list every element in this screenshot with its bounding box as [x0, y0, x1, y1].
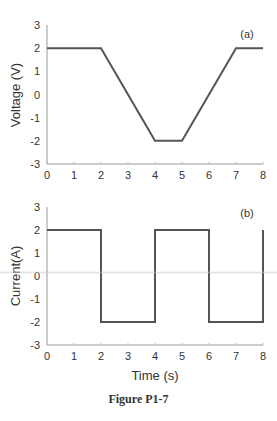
x-tick-label: 4	[152, 169, 158, 181]
y-tick-label: 2	[34, 42, 40, 54]
y-axis-label-a: Voltage (V)	[8, 63, 23, 127]
x-tick-labels-a: 012345678	[44, 162, 266, 181]
y-tick-labels-b: 3210-1-2-3	[30, 201, 40, 351]
y-axis-label-b: Current(A)	[8, 246, 23, 307]
x-tick-label: 7	[233, 169, 239, 181]
x-tick-label: 6	[206, 169, 212, 181]
x-tick-label: 1	[71, 350, 77, 362]
x-tick-label: 8	[260, 169, 266, 181]
x-axis-label-b: Time (s)	[131, 368, 178, 383]
figure-caption: Figure P1-7	[0, 392, 277, 407]
y-tick-label: -3	[30, 158, 40, 170]
y-tick-label: 1	[34, 247, 40, 259]
y-tick-label: 2	[34, 224, 40, 236]
x-tick-label: 0	[44, 169, 50, 181]
y-tick-label: 0	[34, 89, 40, 101]
y-tick-label: -1	[30, 293, 40, 305]
chart-b: 3210-1-2-3 012345678 Current(A) (b) Time…	[8, 201, 266, 383]
y-tick-label: -1	[30, 112, 40, 124]
voltage-line	[47, 48, 263, 141]
y-tick-label: -2	[30, 135, 40, 147]
x-tick-label: 6	[206, 350, 212, 362]
x-tick-label: 2	[98, 350, 104, 362]
panel-label-a: (a)	[240, 28, 253, 40]
x-tick-label: 4	[152, 350, 158, 362]
scan-glare	[0, 271, 277, 274]
x-tick-label: 8	[260, 350, 266, 362]
y-tick-label: -3	[30, 339, 40, 351]
panel-label-b: (b)	[240, 207, 253, 219]
x-tick-labels-b: 012345678	[44, 343, 266, 362]
current-line	[47, 230, 263, 322]
x-tick-label: 3	[125, 169, 131, 181]
x-tick-label: 5	[179, 169, 185, 181]
x-tick-label: 7	[233, 350, 239, 362]
x-tick-label: 5	[179, 350, 185, 362]
y-tick-label: 3	[34, 201, 40, 213]
y-tick-label: 3	[34, 19, 40, 31]
chart-a: 3210-1-2-3 012345678 Voltage (V) (a)	[8, 19, 266, 181]
figure: 3210-1-2-3 012345678 Voltage (V) (a) 321…	[0, 0, 277, 421]
y-tick-labels-a: 3210-1-2-3	[30, 19, 40, 170]
x-tick-label: 0	[44, 350, 50, 362]
y-tick-label: 1	[34, 65, 40, 77]
x-tick-label: 1	[71, 169, 77, 181]
y-tick-label: -2	[30, 316, 40, 328]
x-tick-label: 3	[125, 350, 131, 362]
x-tick-label: 2	[98, 169, 104, 181]
